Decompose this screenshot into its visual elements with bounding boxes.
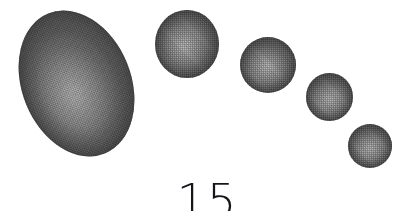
sphere-3 xyxy=(240,37,296,93)
sphere-3-edge-shading xyxy=(240,37,296,93)
sphere-4-edge-shading xyxy=(306,73,353,121)
figure-page: 15 xyxy=(0,0,414,211)
sphere-2 xyxy=(155,10,219,78)
sphere-4 xyxy=(306,73,353,121)
sphere-5-edge-shading xyxy=(348,124,392,168)
sphere-5 xyxy=(348,124,392,168)
ellipse-1 xyxy=(0,0,155,174)
ellipse-1-edge-shading xyxy=(0,0,155,174)
figure-number: 15 xyxy=(0,178,414,211)
sphere-2-edge-shading xyxy=(155,10,219,78)
